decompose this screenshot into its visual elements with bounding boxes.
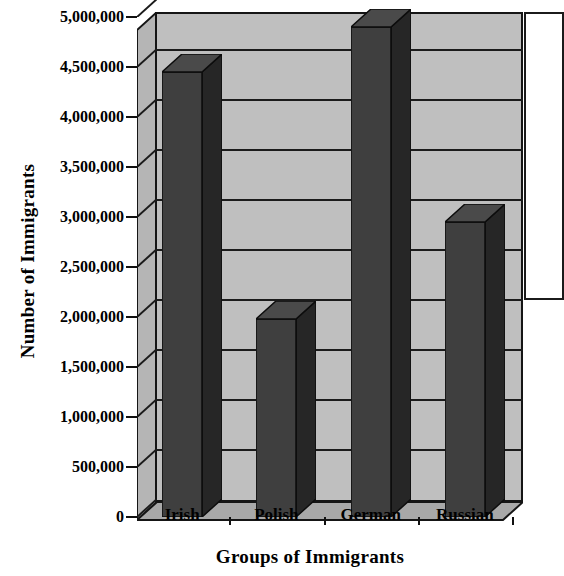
y-axis-tick-mark xyxy=(126,66,137,68)
bar xyxy=(445,204,505,517)
legend-box xyxy=(524,12,564,300)
x-axis-tick-label: German xyxy=(321,505,421,525)
gridline-depth-connector xyxy=(137,449,157,467)
y-axis-tick-label: 4,500,000 xyxy=(6,59,124,75)
gridline-depth-connector xyxy=(137,249,157,267)
bar-front-face xyxy=(445,222,485,517)
gridline-depth-connector xyxy=(137,0,157,17)
x-axis-title: Groups of Immigrants xyxy=(110,546,510,568)
y-axis-tick-mark xyxy=(126,466,137,468)
gridline-depth-connector xyxy=(137,49,157,67)
gridline-depth-connector xyxy=(137,199,157,217)
y-axis-tick-mark xyxy=(126,266,137,268)
x-axis-tick-label: Irish xyxy=(132,505,232,525)
gridline-depth-connector xyxy=(137,99,157,117)
bar-3d-shape xyxy=(256,301,316,517)
bar xyxy=(162,54,222,517)
bar-front-face xyxy=(351,27,391,517)
y-axis-tick-mark xyxy=(126,366,137,368)
bar-side-face xyxy=(391,9,411,517)
y-axis-tick-mark xyxy=(126,116,137,118)
y-axis-tick-mark xyxy=(126,416,137,418)
bar-front-face xyxy=(256,319,296,517)
gridline-depth-connector xyxy=(137,299,157,317)
x-axis-tick-label: Russian xyxy=(415,505,515,525)
y-axis-tick-mark xyxy=(126,166,137,168)
y-axis-tick-label: 4,000,000 xyxy=(6,109,124,125)
y-axis-tick-labels: 0500,0001,000,0001,500,0002,000,0002,500… xyxy=(0,0,124,576)
bar-side-face xyxy=(485,204,505,517)
bar-side-face xyxy=(202,54,222,517)
bar-side-face xyxy=(296,301,316,517)
y-axis-tick-label: 2,500,000 xyxy=(6,259,124,275)
y-axis-tick-label: 5,000,000 xyxy=(6,9,124,25)
bar-3d-shape xyxy=(445,204,505,517)
y-axis-tick-mark xyxy=(126,216,137,218)
bar-3d-shape xyxy=(351,9,411,517)
plot-area xyxy=(137,12,523,520)
y-axis-tick-label: 3,500,000 xyxy=(6,159,124,175)
gridline-depth-connector xyxy=(137,149,157,167)
y-axis-tick-mark xyxy=(126,316,137,318)
gridline-depth-connector xyxy=(137,349,157,367)
y-axis-tick-label: 1,500,000 xyxy=(6,359,124,375)
x-axis-tick-label: Polish xyxy=(226,505,326,525)
y-axis-tick-label: 2,000,000 xyxy=(6,309,124,325)
bar-3d-shape xyxy=(162,54,222,517)
y-axis-tick-mark xyxy=(126,16,137,18)
gridline-depth-connector xyxy=(137,399,157,417)
y-axis-tick-label: 1,000,000 xyxy=(6,409,124,425)
y-axis-tick-label: 500,000 xyxy=(6,459,124,475)
gridline xyxy=(155,49,523,51)
bar xyxy=(256,301,316,517)
bar-front-face xyxy=(162,72,202,517)
bar xyxy=(351,9,411,517)
y-axis-tick-label: 3,000,000 xyxy=(6,209,124,225)
y-axis-tick-label: 0 xyxy=(6,509,124,525)
